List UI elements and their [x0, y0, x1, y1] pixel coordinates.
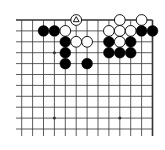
hoshi-point — [53, 117, 56, 120]
black-stone-circle — [60, 36, 71, 47]
black-stone-circle — [147, 26, 158, 37]
white-stone[interactable] — [71, 36, 82, 47]
black-stone[interactable] — [114, 47, 125, 58]
go-board-svg[interactable] — [0, 0, 165, 150]
black-stone-circle — [104, 36, 115, 47]
black-stone[interactable] — [49, 26, 60, 37]
white-stone[interactable] — [114, 15, 125, 26]
white-stone-circle — [60, 26, 71, 37]
white-stone-circle — [136, 15, 147, 26]
black-stone[interactable] — [82, 58, 93, 69]
white-stone[interactable] — [82, 36, 93, 47]
black-stone[interactable] — [147, 26, 158, 37]
black-stone[interactable] — [136, 26, 147, 37]
white-stone[interactable] — [125, 26, 136, 37]
black-stone[interactable] — [60, 58, 71, 69]
white-stone[interactable] — [104, 26, 115, 37]
white-stone-circle — [114, 26, 125, 37]
black-stone-circle — [125, 47, 136, 58]
black-stone[interactable] — [125, 36, 136, 47]
white-stone-circle — [114, 15, 125, 26]
white-stone-circle — [71, 36, 82, 47]
hoshi-point — [118, 117, 121, 120]
black-stone-circle — [38, 26, 49, 37]
white-stone[interactable] — [136, 15, 147, 26]
hoshi-point — [53, 51, 56, 54]
white-stone-circle — [114, 36, 125, 47]
white-stone-circle — [104, 26, 115, 37]
black-stone-circle — [49, 26, 60, 37]
black-stone[interactable] — [125, 47, 136, 58]
white-stone[interactable] — [71, 15, 82, 26]
white-stone-circle — [82, 36, 93, 47]
black-stone[interactable] — [60, 47, 71, 58]
black-stone[interactable] — [38, 26, 49, 37]
black-stone-circle — [125, 36, 136, 47]
white-stone[interactable] — [60, 26, 71, 37]
black-stone-circle — [60, 58, 71, 69]
black-stone[interactable] — [104, 36, 115, 47]
white-stone-circle — [125, 26, 136, 37]
black-stone-circle — [82, 58, 93, 69]
black-stone-circle — [104, 47, 115, 58]
black-stone[interactable] — [104, 47, 115, 58]
black-stone-circle — [136, 26, 147, 37]
go-board[interactable] — [0, 0, 165, 150]
black-stone[interactable] — [60, 36, 71, 47]
black-stone-circle — [114, 47, 125, 58]
black-stone-circle — [60, 47, 71, 58]
white-stone[interactable] — [114, 36, 125, 47]
white-stone[interactable] — [114, 26, 125, 37]
